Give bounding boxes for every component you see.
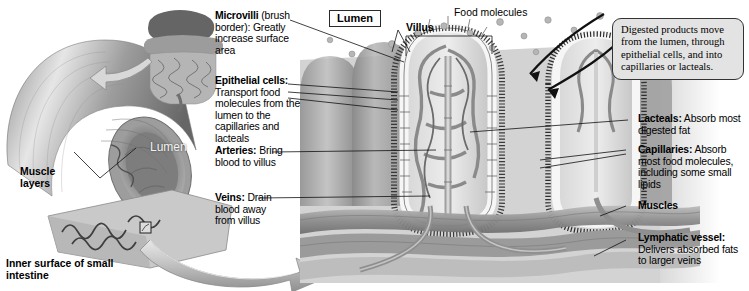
- label-epithelial-cells: Epithelial cells: Transport food molecul…: [215, 75, 307, 145]
- villus-label: Villus: [406, 22, 434, 34]
- muscle-layers-label: Muscle layers: [20, 166, 80, 189]
- label-arteries: Arteries: Bring blood to villus: [215, 145, 285, 168]
- label-microvilli: Microvilli (brush border): Greatly incre…: [215, 10, 307, 56]
- label-lymphatic-vessel-text: Delivers absorbed fats to larger veins: [638, 244, 738, 267]
- label-lacteals-term: Lacteals:: [638, 113, 682, 124]
- food-molecules-label: Food molecules: [454, 7, 527, 19]
- label-epithelial-cells-term: Epithelial cells:: [215, 75, 288, 86]
- tube-lumen-label: Lumen: [150, 140, 187, 154]
- label-epithelial-cells-text: Transport food molecules from the lumen …: [215, 87, 300, 144]
- label-muscles: Muscles: [638, 200, 738, 212]
- label-arteries-term: Arteries:: [215, 145, 256, 156]
- label-lacteals: Lacteals: Absorb most digested fat: [638, 113, 742, 136]
- label-veins: Veins: Drain blood away from villus: [215, 192, 285, 227]
- inner-surface-label: Inner surface of small intestine: [6, 258, 146, 281]
- label-capillaries-term: Capillaries:: [638, 144, 692, 155]
- label-capillaries: Capillaries: Absorb most food molecules,…: [638, 144, 744, 190]
- abdominal-anatomy-inset: [144, 10, 223, 112]
- digested-products-callout: Digested products move from the lumen, t…: [612, 18, 744, 80]
- lumen-box-label: Lumen: [329, 10, 381, 27]
- label-lymphatic-vessel-term: Lymphatic vessel:: [638, 232, 725, 243]
- figure-canvas: Lumen Villus Food molecules Muscle layer…: [0, 0, 749, 291]
- label-microvilli-term: Microvilli: [215, 10, 259, 21]
- label-veins-term: Veins:: [215, 192, 245, 203]
- label-muscles-term: Muscles: [638, 200, 678, 211]
- label-lymphatic-vessel: Lymphatic vessel: Delivers absorbed fats…: [638, 232, 742, 267]
